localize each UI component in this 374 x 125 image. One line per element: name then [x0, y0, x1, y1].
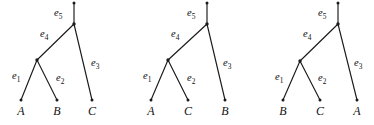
tree-2-leaf-tip-C: [187, 99, 190, 102]
tree-3-leaf-label-B: B: [279, 104, 287, 118]
tree-1-leaf-tip-B: [56, 99, 59, 102]
tree-2-branch-e1: [151, 60, 168, 100]
tree-3-edge-label-e5: e5: [318, 7, 327, 21]
tree-2-internal-node: [166, 58, 169, 61]
tree-2-edge-label-e1: e1: [143, 70, 152, 84]
tree-1-branch-e3: [74, 24, 92, 100]
tree-1-edge-label-e2: e2: [56, 72, 65, 86]
tree-2: e1e2e3e4e5ACB: [143, 2, 232, 119]
tree-3-edge-label-e1: e1: [275, 71, 284, 85]
tree-1-leaf-tip-C: [91, 99, 94, 102]
tree-1-internal-node: [35, 58, 38, 61]
tree-2-edge-label-e5: e5: [187, 7, 196, 21]
tree-1-leaf-label-C: C: [88, 104, 97, 118]
tree-1-edge-label-e3: e3: [91, 57, 100, 71]
tree-2-branch-e2: [168, 60, 188, 100]
tree-1-leaf-label-B: B: [53, 104, 61, 118]
tree-3-leaf-tip-A: [356, 99, 359, 102]
tree-3-branch-e1: [283, 61, 300, 100]
tree-1-root-tip: [73, 2, 76, 5]
tree-1-branch-e1: [21, 60, 37, 100]
tree-1-edge-label-e5: e5: [54, 7, 63, 21]
tree-3-leaf-tip-C: [319, 99, 322, 102]
phylogenetic-trees-figure: e1e2e3e4e5ABCe1e2e3e4e5ACBe1e2e3e4e5BCA: [0, 0, 374, 125]
tree-3-root-tip: [337, 2, 340, 5]
tree-1: e1e2e3e4e5ABC: [12, 2, 100, 119]
tree-3-edge-label-e2: e2: [318, 72, 327, 86]
tree-1-branch-e2: [37, 60, 57, 100]
tree-1-edge-label-e4: e4: [40, 28, 49, 42]
tree-3-leaf-tip-B: [282, 99, 285, 102]
tree-1-edge-label-e1: e1: [12, 70, 21, 84]
tree-2-leaf-tip-A: [150, 99, 153, 102]
tree-3-internal-node: [298, 59, 301, 62]
tree-3-branch-e2: [300, 61, 320, 100]
tree-2-leaf-label-B: B: [221, 104, 229, 118]
tree-3: e1e2e3e4e5BCA: [275, 2, 363, 119]
tree-2-root-tip: [206, 2, 209, 5]
tree-2-split-node: [205, 22, 208, 25]
tree-1-split-node: [72, 22, 75, 25]
tree-2-leaf-tip-B: [224, 99, 227, 102]
tree-3-split-node: [336, 22, 339, 25]
tree-3-edge-label-e4: e4: [303, 28, 312, 42]
tree-1-leaf-tip-A: [20, 99, 23, 102]
tree-3-leaf-label-A: A: [352, 104, 361, 118]
tree-3-leaf-label-C: C: [316, 104, 325, 118]
tree-2-leaf-label-A: A: [146, 104, 155, 118]
tree-1-leaf-label-A: A: [16, 104, 25, 118]
tree-3-edge-label-e3: e3: [354, 57, 363, 71]
tree-2-edge-label-e4: e4: [171, 28, 180, 42]
tree-diagram-canvas: e1e2e3e4e5ABCe1e2e3e4e5ACBe1e2e3e4e5BCA: [0, 0, 374, 125]
tree-2-edge-label-e2: e2: [187, 72, 196, 86]
tree-2-edge-label-e3: e3: [223, 57, 232, 71]
tree-2-leaf-label-C: C: [184, 104, 193, 118]
